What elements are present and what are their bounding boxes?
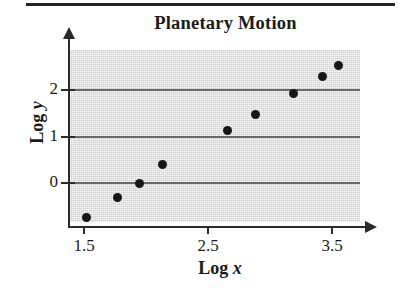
- x-tick-label-1.5: 1.5: [61, 236, 107, 256]
- x-tick-2.5: [207, 226, 209, 234]
- gridline-y-1: [70, 136, 360, 138]
- y-tick-1: [61, 136, 75, 138]
- x-axis-title: Log x: [140, 258, 300, 279]
- x-axis-title-prefix: Log: [198, 258, 233, 278]
- y-axis-title-variable: y: [27, 101, 47, 109]
- x-tick-3.5: [331, 226, 333, 234]
- y-tick-2: [61, 89, 75, 91]
- gridline-y-0: [70, 182, 360, 184]
- data-point: [318, 72, 327, 81]
- y-axis-arrow-icon: [63, 27, 75, 39]
- page-top-rule: [26, 3, 395, 6]
- y-axis-line: [68, 36, 70, 228]
- y-tick-label-0: 0: [32, 172, 58, 192]
- gridline-y-2: [70, 89, 360, 91]
- y-axis-title-prefix: Log: [27, 109, 47, 144]
- x-axis-line: [68, 226, 368, 228]
- chart-title: Planetary Motion: [0, 13, 399, 34]
- x-tick-label-3.5: 3.5: [309, 236, 355, 256]
- data-point: [135, 179, 144, 188]
- data-point: [334, 61, 343, 70]
- x-tick-1.5: [83, 226, 85, 234]
- y-axis-title: Log y: [27, 78, 48, 168]
- x-axis-title-variable: x: [233, 258, 242, 278]
- x-tick-label-2.5: 2.5: [185, 236, 231, 256]
- chart-title-text: Planetary Motion: [154, 13, 296, 33]
- data-point: [158, 160, 167, 169]
- x-axis-arrow-icon: [365, 221, 377, 233]
- y-tick-0: [61, 182, 75, 184]
- data-point: [289, 89, 298, 98]
- planetary-motion-figure: Planetary Motion 012 1.52.53.5 Log x Log…: [0, 0, 399, 293]
- data-point: [251, 110, 260, 119]
